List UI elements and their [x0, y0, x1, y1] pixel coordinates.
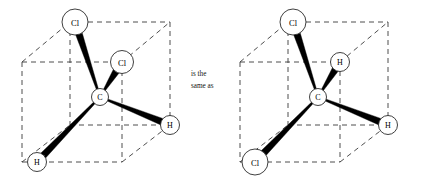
left-atom-h-3-label: H [167, 121, 173, 130]
right-bond-c-to-cl-2 [261, 101, 314, 155]
left-atom-cl-1-label: Cl [118, 58, 127, 68]
structure-right: ClHClHC [240, 9, 398, 175]
diagram-canvas: ClClHHC ClHClHC is the same as [0, 0, 421, 184]
comparison-text-line1: is the [191, 70, 206, 78]
left-bond-c-to-h-2 [40, 101, 95, 158]
right-atom-h-1-label: H [337, 58, 343, 67]
right-bond-c-to-h-3 [324, 99, 381, 125]
left-bond-c-to-h-3 [106, 99, 163, 125]
right-bond-c-to-h-1 [321, 67, 338, 91]
structure-left: ClClHHC [22, 9, 180, 172]
left-cube-edge-top-left-depth [22, 22, 70, 62]
right-atom-carbon-label: C [315, 93, 320, 102]
molecule-comparison-figure: ClClHHC ClHClHC is the same as [0, 0, 421, 184]
comparison-text-line2: same as [191, 82, 214, 90]
right-atom-cl-2-label: Cl [251, 158, 260, 168]
left-atom-carbon-label: C [97, 93, 102, 102]
left-bond-c-to-cl-0 [76, 32, 99, 90]
right-atom-h-3-label: H [385, 121, 391, 130]
right-cube-edge-top-left-depth [240, 22, 288, 62]
right-bond-c-to-cl-0 [294, 32, 317, 90]
left-atom-cl-0-label: Cl [71, 18, 80, 28]
right-atom-cl-0-label: Cl [289, 18, 298, 28]
left-atom-h-2-label: H [34, 158, 40, 167]
